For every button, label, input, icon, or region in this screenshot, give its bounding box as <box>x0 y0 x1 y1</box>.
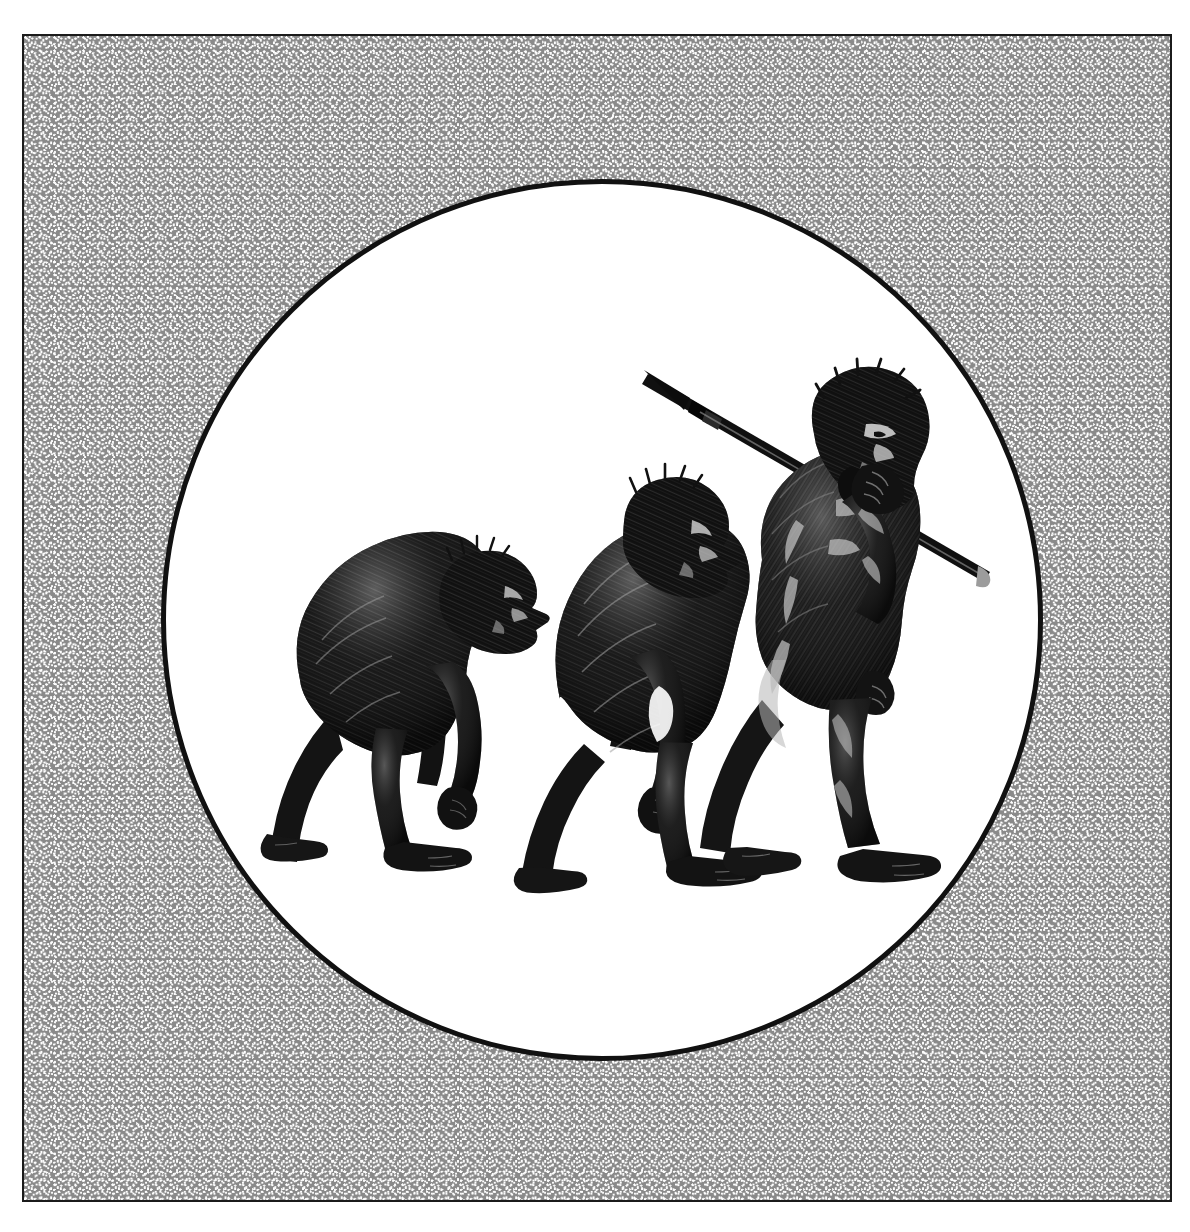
illustration-canvas <box>0 0 1190 1232</box>
stipple-texture-overlay <box>24 36 1170 1200</box>
engraving-plate-frame <box>22 34 1172 1202</box>
